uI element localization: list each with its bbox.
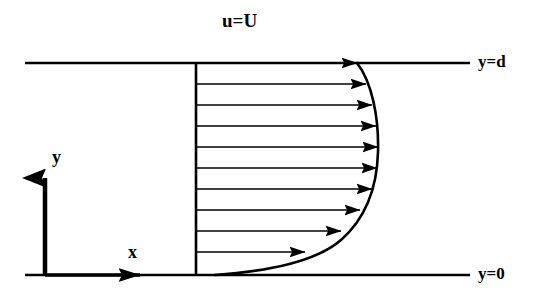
velocity-arrow-group — [196, 63, 378, 252]
diagram-canvas — [0, 0, 538, 298]
lower-wall-label: y=0 — [478, 265, 505, 282]
velocity-profile-figure: u=U y=d y=0 y x — [0, 0, 538, 298]
velocity-profile-curve — [215, 63, 378, 275]
y-axis-label: y — [52, 148, 61, 166]
inlet-velocity-label: u=U — [222, 11, 257, 30]
upper-wall-label: y=d — [478, 53, 506, 70]
x-axis-label: x — [128, 243, 137, 261]
